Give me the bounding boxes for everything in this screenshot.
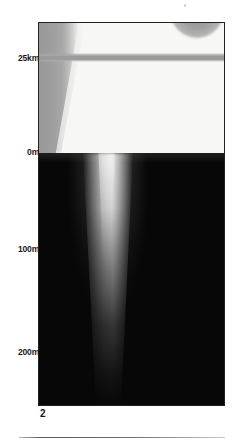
bottom-divider — [19, 437, 225, 438]
axis-tick-100m: 100m — [18, 244, 39, 254]
upper-zone — [39, 23, 224, 153]
axis-tick-25km: 25km — [18, 53, 39, 63]
figure-panel-2: 25km 0m 100m 200m 2 — [0, 0, 235, 444]
panel-number-label: 2 — [40, 408, 46, 419]
left-grey-wedge-soft-edge — [39, 23, 85, 153]
speck-mark — [184, 4, 186, 7]
horizontal-grey-band-core — [39, 56, 224, 60]
lower-zone — [39, 153, 224, 406]
image-panel — [38, 22, 225, 406]
plume-depth-fade — [39, 153, 224, 406]
top-grey-blob — [170, 22, 224, 38]
axis-tick-200m: 200m — [18, 347, 39, 357]
